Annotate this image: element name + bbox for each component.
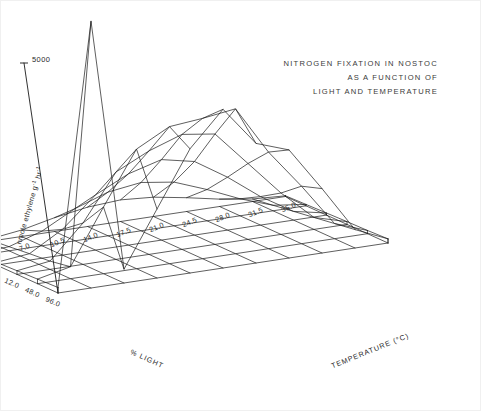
z-axis-label-main: nmole ethylene g — [14, 185, 39, 245]
x-tick-label-10: 35.0 — [280, 200, 297, 214]
chart-figure: 03.57.010.514.017.521.024.528.031.535.09… — [0, 0, 481, 411]
base-grid-col — [121, 222, 224, 269]
mesh-col-line — [154, 109, 257, 197]
chart-title-line-2: AS A FUNCTION OF — [348, 73, 438, 82]
chart-title-line-1: NITROGEN FIXATION IN NOSTOC — [283, 59, 438, 68]
mesh-row-line — [17, 134, 347, 271]
y-tick-label-2: 12.0 — [3, 276, 21, 290]
z-axis-label: nmole ethylene g-1 hr-1 — [13, 165, 45, 245]
mesh-col-line — [88, 127, 191, 208]
z-tick-label-5000: 5000 — [32, 55, 50, 64]
x-tick-label-7: 24.5 — [181, 215, 198, 229]
mesh-row-line — [1, 160, 327, 263]
mesh-col-line — [286, 196, 389, 239]
x-axis-title: TEMPERATURE (°C) — [330, 331, 410, 370]
chart-title: NITROGEN FIXATION IN NOSTOC AS A FUNCTIO… — [283, 59, 438, 96]
surface-plot-svg: 03.57.010.514.017.521.024.528.031.535.09… — [1, 1, 481, 411]
x-tick-label-6: 21.0 — [148, 220, 165, 234]
mesh-col-line — [121, 109, 224, 200]
y-tick-label-1: 48.0 — [24, 285, 42, 299]
x-tick-label-4: 14.0 — [82, 230, 99, 244]
z-axis-ticks: 5000 — [20, 55, 50, 64]
axis-labels: 03.57.010.514.017.521.024.528.031.535.09… — [1, 200, 410, 370]
base-grid-col — [286, 197, 389, 244]
y-tick-label-0: 96.0 — [44, 295, 62, 309]
base-grid-col — [55, 232, 158, 279]
base-grid-col — [88, 227, 191, 274]
x-tick-label-5: 17.5 — [115, 225, 132, 239]
base-grid-col — [220, 207, 323, 254]
z-axis-label-text: nmole ethylene g-1 hr-1 — [13, 165, 45, 245]
chart-title-line-3: LIGHT AND TEMPERATURE — [313, 87, 438, 96]
base-grid-col — [187, 212, 290, 259]
x-tick-label-8: 28.0 — [214, 210, 231, 224]
base-grid-col — [154, 217, 257, 264]
x-tick-label-9: 31.5 — [247, 205, 264, 219]
y-axis-title: % LIGHT — [129, 347, 165, 370]
